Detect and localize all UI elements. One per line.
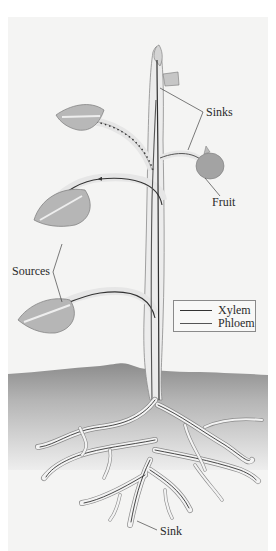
legend-label-phloem: Phloem (218, 316, 255, 331)
legend: Xylem Phloem (173, 300, 256, 332)
leaf-lower-left (18, 299, 74, 333)
stem (144, 46, 164, 400)
fruit (196, 153, 224, 179)
label-fruit: Fruit (212, 196, 235, 208)
xylem-line-swatch (180, 310, 212, 311)
label-sink: Sink (160, 525, 182, 537)
label-sources: Sources (12, 265, 50, 277)
phloem-line-swatch (180, 323, 212, 324)
young-leaf (163, 72, 179, 86)
legend-item-phloem: Phloem (180, 317, 255, 330)
label-sinks: Sinks (206, 106, 233, 118)
